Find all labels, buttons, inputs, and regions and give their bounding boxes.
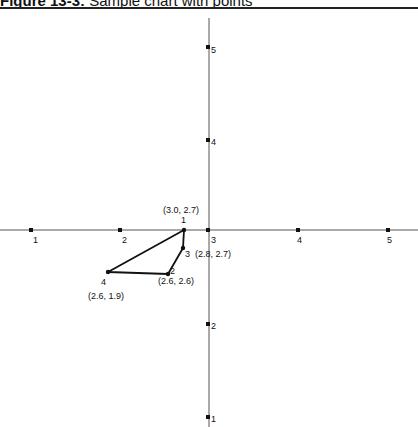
x-tick-marker	[29, 228, 33, 232]
x-tick-marker	[386, 228, 390, 232]
y-tick-marker	[206, 45, 210, 49]
x-tick-label: 2	[122, 235, 127, 245]
point-id: 2	[170, 266, 175, 276]
data-point-3: 3 (2.8, 2.7)	[181, 246, 231, 259]
point-marker	[182, 228, 186, 232]
y-tick-marker	[206, 415, 210, 419]
point-coord: (2.8, 2.7)	[195, 249, 231, 259]
x-ticks: 1 2 3 4 5	[29, 228, 392, 245]
y-tick-label: 2	[211, 321, 216, 331]
x-tick-marker	[206, 228, 210, 232]
x-tick-label: 4	[297, 235, 302, 245]
point-coord: (2.6, 1.9)	[88, 291, 124, 301]
y-tick-marker	[206, 322, 210, 326]
x-tick-label: 1	[33, 235, 38, 245]
data-point-1: 1 (3.0, 2.7)	[163, 205, 199, 232]
chart-canvas: 1 2 3 4 5 5 4 2 1 1 (3.0, 2.7) 3 (2.8, 2…	[0, 0, 418, 427]
point-id: 4	[101, 277, 106, 287]
y-tick-label: 1	[211, 414, 216, 424]
y-tick-marker	[206, 138, 210, 142]
x-tick-label: 3	[211, 235, 216, 245]
point-id: 3	[185, 249, 190, 259]
x-tick-marker	[296, 228, 300, 232]
y-tick-label: 5	[211, 45, 216, 55]
point-marker	[106, 270, 110, 274]
x-tick-label: 5	[387, 235, 392, 245]
y-tick-label: 4	[211, 137, 216, 147]
point-id: 1	[181, 215, 186, 225]
x-tick-marker	[118, 228, 122, 232]
point-coord: (3.0, 2.7)	[163, 205, 199, 215]
data-point-2: 2 (2.6, 2.6)	[158, 266, 194, 286]
point-coord: (2.6, 2.6)	[158, 276, 194, 286]
data-point-4: 4 (2.6, 1.9)	[88, 270, 124, 301]
